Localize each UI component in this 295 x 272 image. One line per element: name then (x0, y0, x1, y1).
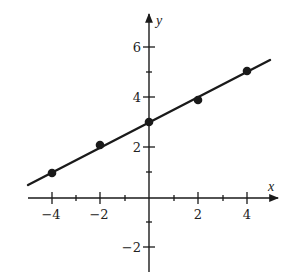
data-point (145, 118, 154, 127)
data-point (48, 169, 57, 178)
y-axis-label: y (154, 13, 163, 28)
data-point (243, 67, 252, 76)
x-axis-label: x (267, 179, 275, 194)
x-tick-label: 2 (194, 207, 202, 222)
x-tick-label: −2 (89, 207, 108, 222)
y-tick-label: 2 (133, 140, 141, 155)
y-tick-label: −2 (122, 240, 141, 255)
chart: −4 −2 2 4 6 4 2 −2 x y (0, 0, 295, 272)
data-point (194, 96, 203, 105)
data-point (96, 141, 105, 150)
y-tick-label: 4 (133, 90, 141, 105)
x-tick-label: −4 (41, 207, 60, 222)
y-tick-label: 6 (133, 40, 141, 55)
x-tick-label: 4 (243, 207, 251, 222)
